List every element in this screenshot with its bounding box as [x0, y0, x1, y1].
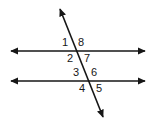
angle-label-7: 7 — [84, 53, 90, 64]
angle-label-6: 6 — [91, 67, 97, 78]
angle-label-1: 1 — [62, 37, 68, 48]
angle-label-3: 3 — [73, 67, 79, 78]
angle-label-4: 4 — [79, 83, 85, 94]
angle-label-2: 2 — [67, 53, 73, 64]
angle-label-8: 8 — [78, 37, 84, 48]
geometry-diagram-canvas — [0, 0, 156, 128]
geometry-figure: 1 8 2 7 3 6 4 5 — [0, 0, 156, 128]
angle-label-5: 5 — [96, 83, 102, 94]
